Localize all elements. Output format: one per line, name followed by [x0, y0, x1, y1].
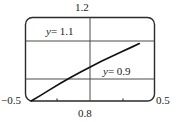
annotation-y-upper: y= 1.1 — [46, 26, 74, 37]
axis-label-x-min: −0.5 — [1, 95, 21, 106]
graph-figure: 1.2 −0.5 0.5 0.8 y= 1.1 y= 0.9 — [0, 0, 177, 122]
plot-area — [0, 0, 177, 122]
annotation-y-lower: y= 0.9 — [103, 66, 131, 77]
annotation-lower-value: = 0.9 — [108, 65, 131, 77]
axis-label-x-max: 0.5 — [156, 95, 170, 106]
annotation-upper-value: = 1.1 — [51, 25, 74, 37]
axis-label-x-mid: 0.8 — [78, 108, 92, 119]
axis-label-y-max: 1.2 — [75, 2, 89, 13]
